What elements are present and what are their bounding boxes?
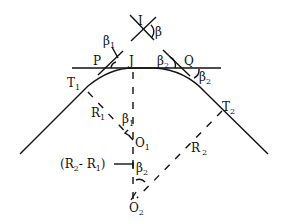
compound-curve-diagram: I β β1 P J β2 Q β2 T1 T2 R1 β1 O1 R2 (R2… bbox=[0, 0, 284, 224]
angle-arc-beta2-left bbox=[170, 57, 175, 68]
tangent-through-p bbox=[98, 51, 123, 75]
label-r1: R1 bbox=[91, 106, 105, 122]
label-i: I bbox=[138, 14, 143, 28]
label-beta2-center: β2 bbox=[136, 161, 148, 177]
angle-arc-beta2-center bbox=[136, 179, 145, 182]
label-j: J bbox=[127, 54, 134, 68]
angle-arc-beta bbox=[151, 25, 154, 37]
label-beta: β bbox=[155, 25, 162, 39]
angle-arc-beta1 bbox=[111, 62, 116, 68]
label-r2: R2 bbox=[191, 141, 207, 157]
label-beta2-right: β2 bbox=[199, 70, 211, 86]
label-p: P bbox=[93, 54, 101, 68]
label-r2-minus-r1: (R2- R1) bbox=[60, 157, 106, 173]
angle-mark-beta1-center bbox=[125, 130, 130, 136]
label-t2: T2 bbox=[222, 100, 235, 116]
label-beta1-center: β1 bbox=[122, 112, 134, 128]
label-q: Q bbox=[184, 54, 194, 68]
label-o1: O1 bbox=[135, 136, 150, 152]
label-t1: T1 bbox=[67, 76, 80, 92]
radius-r2 bbox=[137, 111, 222, 198]
label-o2: O2 bbox=[129, 201, 144, 217]
label-beta2-left: β2 bbox=[157, 54, 169, 70]
label-beta1-top: β1 bbox=[103, 34, 115, 50]
